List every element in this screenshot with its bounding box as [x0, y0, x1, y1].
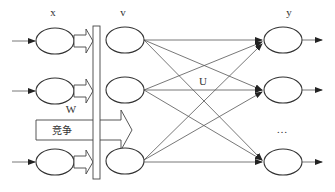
weight-bar [93, 26, 100, 179]
competition-label: 竞争 [52, 124, 72, 136]
input-node-3 [36, 149, 74, 175]
middle-layer-label: v [120, 6, 126, 18]
connections [144, 40, 262, 162]
weight-w-label: W [66, 103, 77, 115]
output-node-3 [264, 149, 302, 175]
block-arrow-2 [74, 79, 93, 103]
input-node-1 [36, 28, 74, 54]
output-layer-label: y [286, 6, 292, 18]
output-node-2 [264, 77, 302, 103]
middle-node-1 [106, 27, 144, 53]
input-node-2 [36, 78, 74, 104]
input-layer-label: x [50, 6, 56, 18]
weight-u-label: U [199, 75, 207, 87]
ellipsis-marker: … [277, 123, 288, 135]
block-arrow-1 [74, 29, 93, 53]
competition-arrow [36, 110, 132, 150]
middle-node-2 [106, 77, 144, 103]
edge-v1-y3 [144, 40, 262, 160]
middle-node-3 [106, 148, 144, 174]
output-node-1 [264, 27, 302, 53]
block-arrow-3 [74, 150, 93, 174]
network-diagram: x v y U W 竞争 … [0, 0, 335, 192]
